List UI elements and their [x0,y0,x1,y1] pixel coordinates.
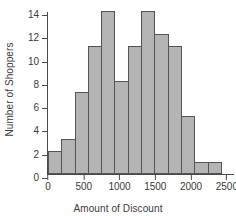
x-axis-tick-label: 1500 [144,182,166,192]
histogram-bar [154,34,168,174]
histogram-bar [61,139,75,174]
y-axis-tick-label: 6 [33,103,42,113]
x-axis-tick-label: 2000 [180,182,202,192]
y-axis-tick-label: 2 [33,150,42,160]
histogram-bar [88,46,102,174]
histogram-bar [48,151,62,174]
y-axis-tick-label: 4 [33,126,42,136]
x-axis-tick-label: 1000 [108,182,130,192]
x-axis-tick-mark [155,175,156,180]
x-axis-tick-label: 500 [75,182,92,192]
histogram-bar [168,46,182,174]
y-axis-title-container: Number of Shoppers [0,0,18,178]
x-axis-tick: 500 [75,175,92,192]
histogram-bar [101,11,115,174]
x-axis-tick-mark [83,175,84,180]
histogram-bars [48,11,234,174]
y-axis-tick-label: 10 [28,57,42,67]
x-axis-tick: 2500 [216,175,236,192]
x-axis-tick-label: 2500 [216,182,236,192]
x-axis-tick-mark [226,175,227,180]
x-axis-tick: 2000 [180,175,202,192]
y-axis-title: Number of Shoppers [4,42,15,136]
y-axis-tick-label: 0 [33,173,42,183]
histogram-bar [75,92,89,174]
x-axis-tick-mark [191,175,192,180]
x-axis-title: Amount of Discount [0,203,236,214]
histogram-bar [141,11,155,174]
x-axis-tick: 1000 [108,175,130,192]
y-axis-ticks: 02468101214 [18,14,47,178]
x-axis-tick-mark [48,175,49,180]
x-axis-tick-label: 0 [45,182,51,192]
y-axis-tick-label: 14 [28,10,42,20]
x-axis-tick-mark [119,175,120,180]
x-axis-tick: 1500 [144,175,166,192]
histogram-bar [181,116,195,174]
x-axis-ticks: 05001000150020002500 [48,175,234,190]
x-axis-tick: 0 [45,175,51,192]
histogram-bar [194,162,208,174]
histogram-bar [128,46,142,174]
y-axis-tick-label: 12 [28,33,42,43]
histogram-bar [114,81,128,174]
y-axis-tick-label: 8 [33,80,42,90]
histogram-bar [208,162,222,174]
plot-area [48,11,234,174]
histogram-figure: Number of Shoppers 02468101214 050010001… [0,0,236,216]
